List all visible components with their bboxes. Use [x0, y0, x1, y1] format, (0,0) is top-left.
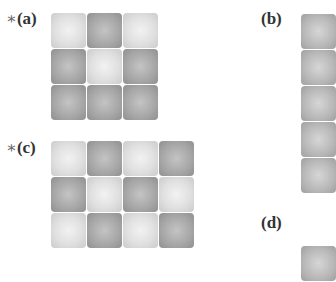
tile-dark [123, 85, 158, 120]
tile-mid [301, 50, 336, 85]
tile-light [87, 177, 122, 212]
tile-light [123, 213, 158, 248]
tile-mid [301, 122, 336, 157]
tile-dark [159, 141, 194, 176]
tile-light [51, 213, 86, 248]
star-marker: ∗ [6, 139, 17, 156]
tile-dark [51, 49, 86, 84]
panel-a-grid [51, 13, 158, 120]
tile-light [87, 49, 122, 84]
tile-light [51, 13, 86, 48]
tile-dark [123, 177, 158, 212]
panel-c-label: ∗(c) [6, 138, 36, 158]
tile-light [159, 177, 194, 212]
panel-d-label: (d) [261, 213, 282, 233]
tile-dark [87, 141, 122, 176]
tile-dark [51, 85, 86, 120]
tile-light [123, 141, 158, 176]
tile-dark [159, 213, 194, 248]
panel-a-label: ∗(a) [6, 9, 37, 29]
tile-mid [301, 246, 336, 281]
tile-dark [87, 85, 122, 120]
tile-mid [301, 158, 336, 193]
tile-light [51, 141, 86, 176]
tile-dark [87, 213, 122, 248]
tile-light [123, 13, 158, 48]
panel-d-grid [301, 246, 336, 281]
tile-mid [301, 14, 336, 49]
tile-dark [123, 49, 158, 84]
panel-b-grid [301, 14, 336, 193]
tile-mid [301, 86, 336, 121]
star-marker: ∗ [6, 10, 17, 27]
tile-dark [87, 13, 122, 48]
panel-c-grid [51, 141, 194, 248]
tile-dark [51, 177, 86, 212]
panel-b-label: (b) [261, 9, 282, 29]
